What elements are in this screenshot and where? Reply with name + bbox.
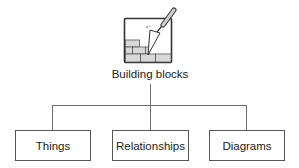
node-diagrams: Diagrams [209, 130, 285, 161]
node-relationships-label: Relationships [116, 140, 185, 152]
connector-line-relationships [150, 105, 151, 130]
node-diagrams-label: Diagrams [222, 140, 271, 152]
root-stem-line [150, 84, 151, 105]
node-things-label: Things [36, 140, 71, 152]
node-relationships: Relationships [112, 130, 189, 161]
root-node-label: Building blocks [100, 68, 200, 80]
building-blocks-diagram: Building blocks Things Relationships Dia… [0, 0, 299, 168]
connector-line-diagrams [246, 105, 247, 130]
brick-wall-trowel-icon [120, 4, 180, 66]
node-things: Things [15, 130, 91, 161]
connector-line-things [52, 105, 53, 130]
